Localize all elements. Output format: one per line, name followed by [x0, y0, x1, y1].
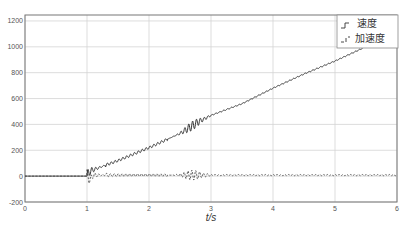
y-tick-label: 1200 [7, 17, 23, 24]
y-axis-ticks: -200020040060080010001200 [7, 17, 23, 205]
x-axis-label: t/s [206, 212, 217, 223]
x-tick-label: 5 [333, 205, 337, 212]
x-tick-label: 2 [147, 205, 151, 212]
legend-velocity-label: 速度 [357, 17, 377, 29]
x-tick-label: 0 [23, 205, 27, 212]
y-tick-label: 1000 [7, 43, 23, 50]
x-axis-ticks: 0123456 [23, 205, 399, 212]
chart: -200020040060080010001200 0123456 t/s 速度… [0, 0, 410, 232]
y-tick-label: 800 [11, 69, 23, 76]
y-tick-label: 400 [11, 121, 23, 128]
y-tick-label: 200 [11, 147, 23, 154]
velocity-series-line [25, 48, 363, 176]
y-tick-label: 600 [11, 95, 23, 102]
x-tick-label: 1 [85, 205, 89, 212]
y-tick-label: -200 [9, 199, 23, 206]
x-tick-label: 3 [209, 205, 213, 212]
legend-acceleration-label: 加速度 [355, 32, 385, 44]
y-tick-label: 0 [19, 173, 23, 180]
x-tick-label: 6 [395, 205, 399, 212]
legend: 速度 加速度 [337, 15, 398, 48]
x-tick-label: 4 [271, 205, 275, 212]
